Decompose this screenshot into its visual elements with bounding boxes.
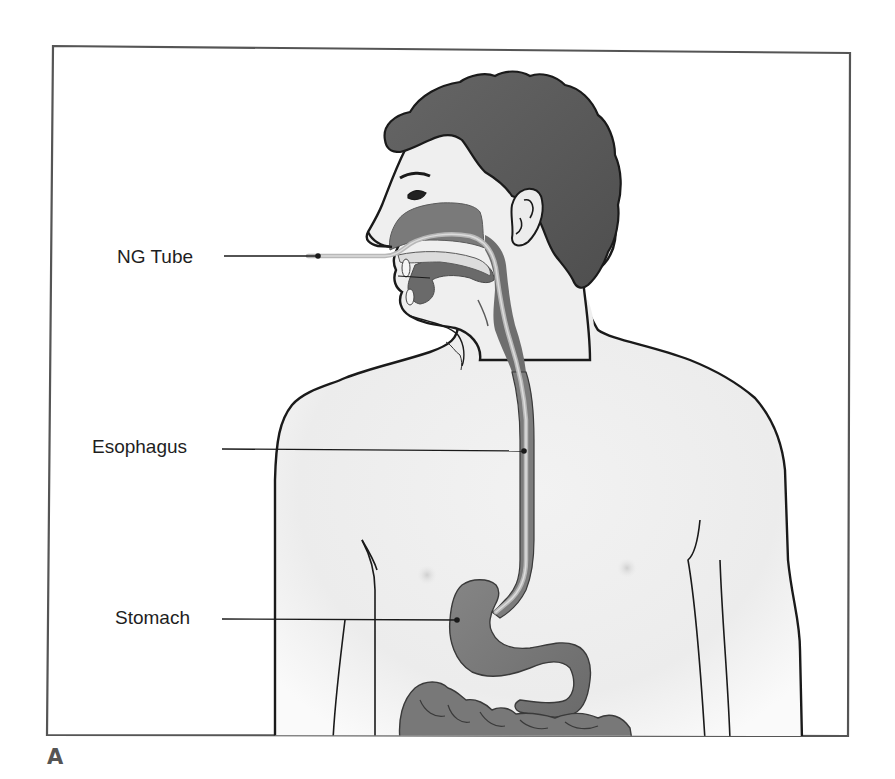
- label-stomach: Stomach: [115, 608, 190, 627]
- label-ng-tube: NG Tube: [117, 247, 193, 266]
- lower-teeth: [406, 289, 414, 305]
- left-nipple: [417, 565, 437, 585]
- panel-letter: A: [47, 747, 63, 768]
- right-nipple: [617, 558, 637, 578]
- label-esophagus: Esophagus: [92, 437, 187, 456]
- ng-tube-illustration: [0, 0, 895, 779]
- upper-teeth: [402, 259, 410, 277]
